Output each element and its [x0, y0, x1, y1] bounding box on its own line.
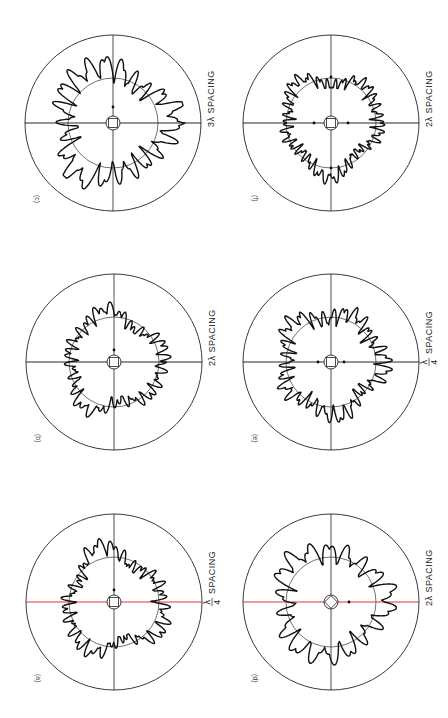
- svg-text:4: 4: [429, 359, 439, 365]
- polar-pattern-figure: (c)3λ SPACING(f)2λ SPACING(b)2λ SPACING(…: [0, 0, 448, 718]
- panel-label: (a): [34, 674, 42, 683]
- panel-label: (d): [251, 674, 259, 683]
- antenna-hub: [106, 116, 120, 130]
- panel-f: (f)2λ SPACING: [243, 35, 434, 211]
- spacing-label: 2λ SPACING: [424, 549, 434, 606]
- spacing-label: λ4SPACING: [202, 551, 222, 606]
- panel-c: (c)3λ SPACING: [25, 35, 216, 211]
- panel-e: (e)λ4SPACING: [243, 274, 439, 450]
- svg-text:4: 4: [212, 599, 222, 605]
- element-marker: [348, 601, 351, 604]
- element-marker: [313, 122, 316, 125]
- panel-label: (e): [251, 434, 259, 443]
- element-marker: [343, 361, 346, 364]
- svg-text:λ: λ: [419, 360, 429, 365]
- panel-d: (d)2λ SPACING: [243, 514, 434, 690]
- panel-label: (f): [251, 195, 259, 202]
- element-marker: [112, 106, 115, 109]
- spacing-label: 2λ SPACING: [207, 309, 217, 366]
- svg-text:SPACING: SPACING: [207, 551, 217, 594]
- panel-b: (b)2λ SPACING: [26, 274, 217, 450]
- panel-label: (c): [33, 195, 41, 203]
- element-marker: [330, 167, 333, 170]
- spacing-label: 2λ SPACING: [424, 70, 434, 127]
- element-marker: [317, 361, 320, 364]
- spacing-label: 3λ SPACING: [206, 70, 216, 127]
- element-marker: [113, 349, 116, 352]
- antenna-hub: [107, 595, 121, 609]
- element-marker: [347, 122, 350, 125]
- svg-text:SPACING: SPACING: [424, 311, 434, 354]
- element-marker: [330, 76, 333, 79]
- spacing-label: λ4SPACING: [419, 311, 439, 366]
- panel-label: (b): [34, 434, 42, 443]
- svg-text:λ: λ: [202, 600, 212, 605]
- element-marker: [113, 589, 116, 592]
- antenna-hub: [324, 595, 338, 609]
- panel-a: (a)λ4SPACING: [26, 514, 222, 690]
